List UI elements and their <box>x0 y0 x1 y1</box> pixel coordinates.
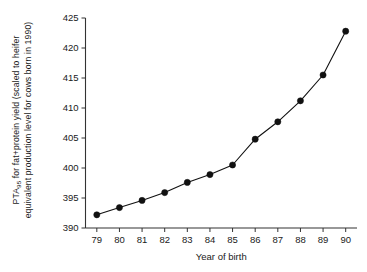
x-tick-label: 88 <box>295 234 306 245</box>
data-point-group <box>94 28 349 218</box>
x-tick-label: 79 <box>92 234 103 245</box>
x-tick-label: 90 <box>340 234 351 245</box>
x-tick-label: 84 <box>205 234 216 245</box>
data-point <box>94 212 100 218</box>
x-tick-label: 80 <box>114 234 125 245</box>
data-series-line <box>97 31 346 215</box>
y-tick-label: 425 <box>63 12 79 23</box>
data-point <box>139 197 145 203</box>
y-tick-label: 410 <box>63 102 79 113</box>
data-point <box>275 119 281 125</box>
data-point <box>343 28 349 34</box>
y-tick-mark-group <box>82 18 86 228</box>
x-tick-mark-group <box>97 228 346 232</box>
data-point <box>116 205 122 211</box>
x-tick-label: 87 <box>273 234 284 245</box>
y-tick-label: 400 <box>63 162 79 173</box>
y-tick-label-group: 390395400405410415420425 <box>63 12 79 233</box>
data-point <box>207 172 213 178</box>
y-tick-label: 390 <box>63 222 79 233</box>
data-point <box>184 179 190 185</box>
data-point <box>162 190 168 196</box>
data-point <box>320 72 326 78</box>
y-tick-label: 395 <box>63 192 79 203</box>
chart-figure: PTA95 for fat+protein yield (scaled to h… <box>0 0 367 272</box>
data-point <box>252 136 258 142</box>
x-tick-label: 89 <box>318 234 329 245</box>
x-axis-title: Year of birth <box>196 251 247 262</box>
y-tick-label: 405 <box>63 132 79 143</box>
y-tick-label: 420 <box>63 42 79 53</box>
x-tick-label: 83 <box>182 234 193 245</box>
x-tick-label: 85 <box>227 234 238 245</box>
y-tick-label: 415 <box>63 72 79 83</box>
x-tick-label-group: 798081828384858687888990 <box>92 234 351 245</box>
data-point <box>297 98 303 104</box>
data-point <box>229 162 235 168</box>
x-tick-label: 86 <box>250 234 261 245</box>
x-tick-label: 81 <box>137 234 148 245</box>
line-chart-plot: 390395400405410415420425 798081828384858… <box>0 0 367 272</box>
x-tick-label: 82 <box>159 234 170 245</box>
